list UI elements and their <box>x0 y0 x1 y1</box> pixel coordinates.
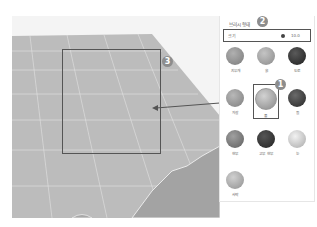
material-grass[interactable]: 풀 <box>255 88 275 118</box>
size-label: 크기 <box>228 33 236 39</box>
callout-badge-2: 2 <box>257 16 268 27</box>
material-road[interactable]: 도로 <box>287 47 307 73</box>
road-swatch <box>288 47 306 65</box>
snow-swatch <box>288 130 306 148</box>
size-value: 10.0 <box>291 33 300 38</box>
grass-swatch <box>255 88 277 110</box>
material-panel: 브러시 형태 2 크기 10.0 지우개 흙 도로 자갈 풀 1 돌 현무 고무… <box>219 16 315 202</box>
rough-basalt-swatch <box>257 130 275 148</box>
material-eraser[interactable]: 지우개 <box>225 47 245 73</box>
eraser-icon <box>226 47 244 65</box>
stone-swatch <box>288 89 306 107</box>
selection-rectangle <box>62 49 161 154</box>
desert-swatch <box>226 171 244 189</box>
material-stone[interactable]: 돌 <box>287 89 307 115</box>
material-rough-basalt[interactable]: 고무 현무 <box>256 130 276 156</box>
material-basalt[interactable]: 현무 <box>225 130 245 156</box>
material-gravel[interactable]: 자갈 <box>225 89 245 115</box>
material-desert[interactable]: 사막 <box>225 171 245 197</box>
brush-size-control[interactable]: 크기 10.0 <box>223 29 311 42</box>
panel-title: 브러시 형태 <box>229 21 250 27</box>
gravel-swatch <box>226 89 244 107</box>
callout-badge-3: 3 <box>162 56 173 67</box>
material-soil[interactable]: 흙 <box>256 47 276 73</box>
soil-swatch <box>257 47 275 65</box>
size-slider-handle[interactable] <box>281 34 285 38</box>
basalt-swatch <box>226 130 244 148</box>
callout-badge-1: 1 <box>275 79 286 90</box>
material-snow[interactable]: 눈 <box>287 130 307 156</box>
terrain-viewport[interactable]: 3 <box>12 16 220 218</box>
